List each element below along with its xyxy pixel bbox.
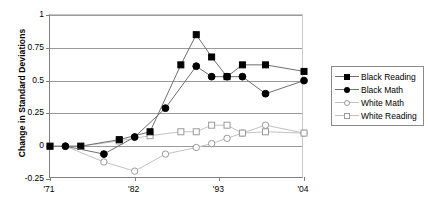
legend-marker (344, 100, 350, 106)
legend-item-white-reading[interactable]: White Reading (335, 109, 421, 122)
data-point (116, 137, 122, 143)
data-point (62, 143, 69, 150)
x-axis-tick-label: '82 (119, 184, 149, 194)
data-point (178, 129, 184, 135)
data-point (209, 122, 215, 128)
data-point (131, 168, 137, 174)
y-axis-tick-label: 0.25 (10, 108, 44, 117)
legend-item-label: Black Reading (359, 72, 416, 82)
legend-item-black-reading[interactable]: Black Reading (335, 70, 421, 83)
series-line (65, 66, 304, 154)
y-axis-tick-label: 0.75 (10, 43, 44, 52)
legend-marker (344, 113, 350, 119)
legend-item-label: White Math (359, 98, 404, 108)
data-point (208, 73, 215, 80)
y-axis-tick-labels: 1 0.75 0.5 0.25 0 -0.25 (8, 0, 44, 210)
y-axis-tick-label: -0.25 (10, 174, 44, 183)
data-point (224, 73, 231, 80)
open-square-icon (335, 110, 359, 121)
data-series-layer (50, 15, 304, 179)
x-axis-tick-mark (304, 177, 305, 181)
data-point (208, 140, 214, 146)
data-point (263, 129, 269, 135)
data-point (162, 105, 169, 112)
legend-marker (344, 87, 350, 93)
data-point (193, 63, 200, 70)
data-point (239, 130, 245, 136)
y-axis-tick-label: 0.5 (10, 76, 44, 85)
filled-square-icon (335, 71, 359, 82)
data-point (147, 129, 153, 135)
data-point (193, 32, 199, 38)
plot-area (49, 14, 303, 178)
data-point (162, 151, 168, 157)
series-white-math (62, 122, 307, 174)
data-point (263, 62, 269, 68)
data-point (301, 68, 307, 74)
y-axis-tick-label: 1 (10, 10, 44, 19)
y-axis-tick-label: 0 (10, 141, 44, 150)
data-point (78, 143, 84, 149)
legend-item-label: Black Math (359, 85, 403, 95)
filled-circle-icon (335, 84, 359, 95)
open-circle-icon (335, 97, 359, 108)
x-axis-tick-label: '04 (288, 184, 318, 194)
x-axis-tick-label: '71 (34, 184, 64, 194)
data-point (193, 144, 199, 150)
data-point (47, 143, 53, 149)
data-point (101, 159, 107, 165)
legend-marker (344, 74, 350, 80)
data-point (262, 122, 268, 128)
x-axis-tick-label: '93 (203, 184, 233, 194)
legend-item-black-math[interactable]: Black Math (335, 83, 421, 96)
data-point (239, 73, 246, 80)
data-point (224, 122, 230, 128)
chart-legend: Black Reading Black Math White Math Whit… (331, 66, 424, 126)
data-point (301, 130, 307, 136)
legend-item-white-math[interactable]: White Math (335, 96, 421, 109)
data-point (100, 151, 107, 158)
data-point (178, 62, 184, 68)
chart-root: Change in Standard Deviations 1 0.75 0.5… (0, 0, 428, 210)
data-point (239, 62, 245, 68)
legend-item-label: White Reading (359, 111, 417, 121)
data-point (301, 77, 308, 84)
data-point (193, 129, 199, 135)
data-point (224, 135, 230, 141)
data-point (262, 90, 269, 97)
data-point (209, 54, 215, 60)
data-point (131, 134, 138, 141)
